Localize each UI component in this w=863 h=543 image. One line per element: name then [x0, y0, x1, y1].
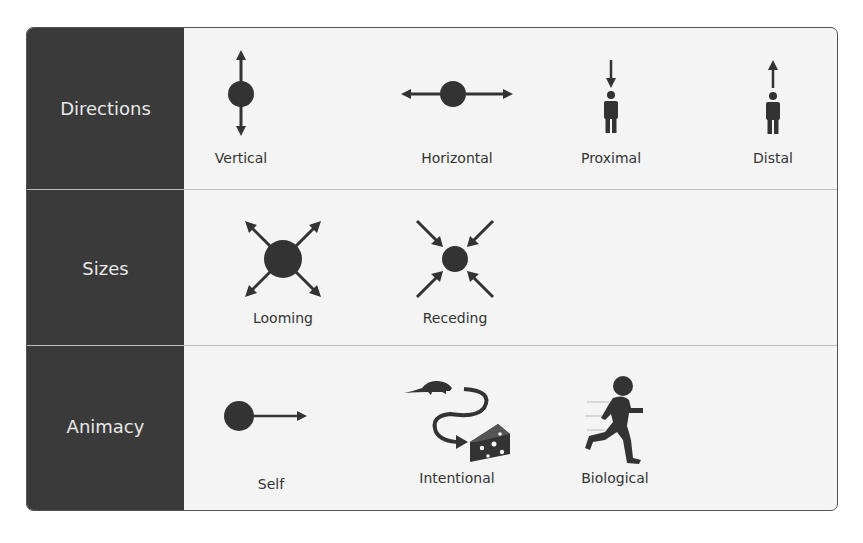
row-label-sizes: Sizes [27, 258, 184, 279]
item-label: Biological [565, 470, 665, 486]
ball-arrow-right-icon [221, 386, 321, 446]
person-arrow-down-icon [571, 48, 651, 138]
mouse-path-cheese-icon [402, 376, 512, 466]
item-label: Proximal [571, 150, 651, 166]
running-child-icon [565, 374, 665, 468]
row-label-directions: Directions [27, 98, 184, 119]
item-label: Self [221, 476, 321, 492]
item-label: Intentional [402, 470, 512, 486]
row-sizes: Sizes Looming [27, 190, 837, 345]
looming-arrows-out-icon [233, 214, 333, 304]
vertical-arrow-ball-icon [201, 48, 281, 138]
item-proximal: Proximal [571, 48, 651, 166]
horizontal-arrow-ball-icon [397, 48, 517, 138]
item-label: Receding [405, 310, 505, 326]
item-label: Horizontal [397, 150, 517, 166]
item-intentional: Intentional [402, 376, 512, 486]
item-self: Self [221, 386, 321, 492]
item-label: Looming [233, 310, 333, 326]
row-animacy: Animacy Self [27, 346, 837, 511]
item-label: Distal [733, 150, 813, 166]
motion-categories-panel: Directions Vertical Horizontal [26, 27, 838, 511]
item-label: Vertical [201, 150, 281, 166]
item-vertical: Vertical [201, 48, 281, 166]
item-biological: Biological [565, 374, 665, 486]
person-arrow-up-icon [733, 48, 813, 138]
item-distal: Distal [733, 48, 813, 166]
row-directions: Directions Vertical Horizontal [27, 28, 837, 189]
row-label-animacy: Animacy [27, 416, 184, 437]
receding-arrows-in-icon [405, 214, 505, 304]
item-receding: Receding [405, 214, 505, 326]
item-horizontal: Horizontal [397, 48, 517, 166]
item-looming: Looming [233, 214, 333, 326]
